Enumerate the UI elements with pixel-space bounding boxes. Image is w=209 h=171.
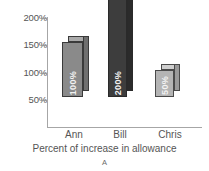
figure-label: A [0,158,209,167]
bar-chris-front-face [155,70,174,97]
x-label-bill: Bill [100,129,140,141]
bar-bill: 200% [108,0,127,97]
bar-chris: 50% [155,70,174,97]
bar-chart-figure: 200% 150% 100% 50% 100% [0,0,209,171]
chart-caption: Percent of increase in allowance [0,143,209,154]
bar-bill-side-face [127,0,133,91]
bar-ann: 100% [62,42,83,97]
bar-chris-side-face [174,64,180,91]
y-tick-200: 200% [0,13,47,23]
x-label-ann: Ann [52,129,96,141]
y-tick-100: 100% [0,68,47,78]
bar-ann-side-face [83,36,89,91]
y-tick-150: 150% [0,40,47,50]
x-label-chris: Chris [148,129,192,141]
y-tick-50: 50% [0,95,47,105]
x-axis-line [47,127,202,128]
plot-area: 200% 150% 100% 50% 100% [0,0,209,140]
bar-ann-front-face [62,42,83,97]
bar-bill-front-face [108,0,127,97]
y-axis-line [47,17,48,128]
